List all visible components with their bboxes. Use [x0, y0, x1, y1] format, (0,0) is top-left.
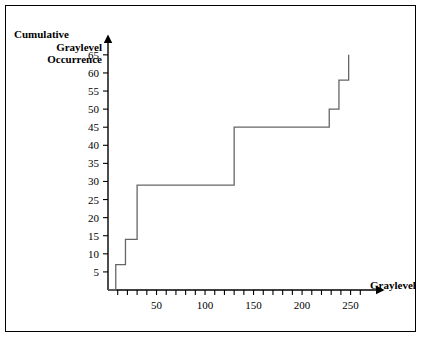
y-tick-label: 5 [94, 266, 100, 278]
x-tick-label: 200 [294, 299, 311, 311]
y-tick-label: 20 [88, 212, 100, 224]
y-tick-label: 35 [88, 157, 100, 169]
y-axis-ticks: 5101520253035404550556065 [88, 49, 108, 278]
y-tick-label: 65 [88, 49, 100, 61]
x-tick-label: 150 [245, 299, 262, 311]
y-tick-label: 15 [88, 230, 100, 242]
x-tick-label: 50 [151, 299, 163, 311]
x-axis: 50100150200250 [108, 290, 377, 311]
y-tick-label: 40 [88, 139, 100, 151]
y-axis: 5101520253035404550556065 [88, 42, 108, 290]
y-tick-label: 45 [88, 121, 100, 133]
y-tick-label: 30 [88, 175, 100, 187]
y-tick-label: 50 [88, 103, 100, 115]
y-tick-label: 10 [88, 248, 100, 260]
x-tick-label: 250 [342, 299, 359, 311]
x-tick-label: 100 [197, 299, 214, 311]
cumulative-step-curve [108, 55, 349, 290]
cumulative-graylevel-chart: 5101520253035404550556065 50100150200250 [0, 0, 423, 339]
y-tick-label: 55 [88, 85, 100, 97]
y-tick-label: 60 [88, 67, 100, 79]
x-axis-ticks: 50100150200250 [118, 290, 361, 311]
y-tick-label: 25 [88, 194, 100, 206]
